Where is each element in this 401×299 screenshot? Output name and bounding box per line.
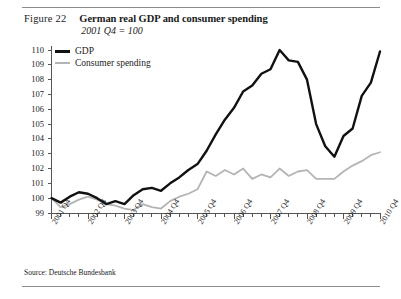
y-axis-tick-label: 108 — [22, 74, 44, 84]
y-axis-tick-label: 101 — [22, 178, 44, 188]
bottom-divider — [22, 286, 380, 287]
y-axis-tick-label: 100 — [22, 193, 44, 203]
y-axis-tick-label: 106 — [22, 104, 44, 114]
series-line-gdp — [52, 50, 381, 204]
y-axis-tick-label: 105 — [22, 119, 44, 129]
legend-item-gdp: GDP — [55, 45, 151, 57]
y-axis-tick-label: 103 — [22, 148, 44, 158]
y-axis-tick-label: 104 — [22, 133, 44, 143]
legend-swatch-consumer-icon — [55, 62, 70, 64]
legend-label-consumer-spending: Consumer spending — [75, 58, 151, 68]
y-axis-tick-label: 102 — [22, 163, 44, 173]
legend-swatch-gdp-icon — [55, 50, 70, 53]
y-axis-tick-label: 110 — [22, 45, 44, 55]
y-axis-tick-label: 107 — [22, 89, 44, 99]
source-note: Source: Deutsche Bundesbank — [24, 268, 116, 277]
y-axis-tick-label: 109 — [22, 59, 44, 69]
legend-item-consumer-spending: Consumer spending — [55, 57, 151, 69]
chart-legend: GDP Consumer spending — [55, 45, 151, 69]
figure-container: Figure 22 German real GDP and consumer s… — [0, 0, 401, 299]
legend-label-gdp: GDP — [75, 46, 94, 56]
y-axis-tick-label: 99 — [22, 208, 44, 218]
